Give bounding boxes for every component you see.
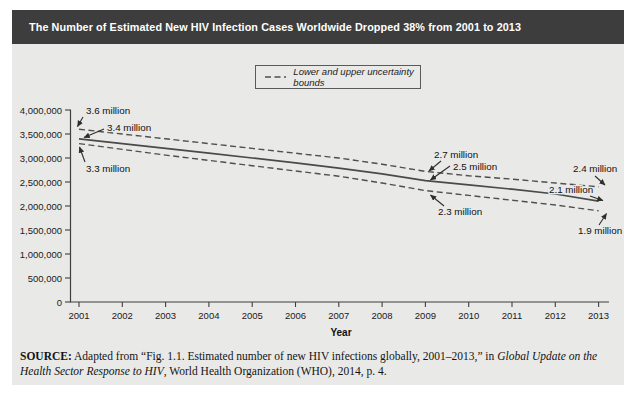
- source-prefix: SOURCE:: [20, 350, 72, 362]
- source-text: Adapted from “Fig. 1.1. Estimated number…: [72, 350, 497, 362]
- source-note: SOURCE: Adapted from “Fig. 1.1. Estimate…: [20, 349, 616, 378]
- legend-label: Lower and upper uncertainty bounds: [293, 66, 420, 88]
- chart-title-bar: The Number of Estimated New HIV Infectio…: [12, 10, 624, 44]
- dashed-line-icon: [265, 74, 286, 80]
- figure-page: The Number of Estimated New HIV Infectio…: [0, 0, 638, 398]
- chart-title: The Number of Estimated New HIV Infectio…: [29, 21, 521, 33]
- source-text: , World Health Organization (WHO), 2014,…: [164, 365, 387, 377]
- legend: Lower and upper uncertainty bounds: [255, 65, 421, 89]
